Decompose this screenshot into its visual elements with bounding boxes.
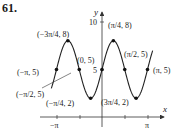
data-point: [112, 39, 116, 43]
x-tick-neg-pi: −π: [50, 121, 59, 130]
y-axis-label: y: [93, 7, 98, 17]
x-tick-pi: π: [145, 121, 149, 130]
data-point: [100, 68, 104, 72]
data-point: [55, 68, 59, 72]
label-3pi4: (3π/4, 2): [101, 98, 129, 107]
data-point: [77, 68, 81, 72]
label-neg-pi: (−π, 5): [17, 68, 39, 77]
data-point: [123, 68, 127, 72]
label-pi: (π, 5): [153, 66, 171, 75]
sine-graph: x y −π π 5 10 (−π, 5) (−3π/4, 8) (−π/2, …: [0, 0, 186, 137]
x-axis-label: x: [162, 104, 167, 114]
label-pi4: (π/4, 8): [108, 21, 132, 30]
y-tick-5: 5: [93, 66, 97, 75]
label-neg-pi4: (−π/4, 2): [46, 99, 74, 108]
label-origin: (0, 5): [77, 56, 95, 65]
y-tick-10: 10: [89, 18, 97, 27]
label-neg-pi2: (−π/2, 5): [16, 90, 44, 99]
data-point: [89, 97, 93, 101]
label-pi2: (π/2, 5): [124, 50, 148, 59]
data-point: [66, 39, 70, 43]
label-neg-3pi4: (−3π/4, 8): [37, 30, 69, 39]
data-point: [134, 97, 138, 101]
data-point: [146, 68, 150, 72]
